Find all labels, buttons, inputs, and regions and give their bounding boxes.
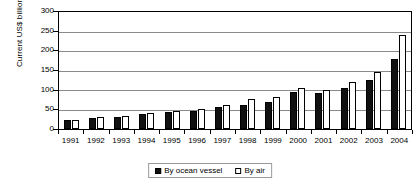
bar-group: [336, 12, 361, 129]
x-tick-mark: [83, 130, 84, 134]
y-tick-label: 50: [26, 105, 54, 113]
x-tick-mark: [387, 130, 388, 134]
bar-air: [173, 111, 180, 129]
bar-ocean-vessel: [265, 102, 272, 129]
bar-group: [285, 12, 310, 129]
x-tick-label: 2002: [336, 136, 361, 145]
chart-legend: By ocean vessel By air: [148, 163, 272, 178]
y-tick-label: 300: [26, 7, 54, 15]
x-tick-label: 1994: [134, 136, 159, 145]
y-tick-label: 200: [26, 46, 54, 54]
y-tick-label: 150: [26, 66, 54, 74]
x-tick-mark: [184, 130, 185, 134]
bar-group: [134, 12, 159, 129]
x-tick-mark: [412, 130, 413, 134]
bar-air: [223, 105, 230, 129]
x-tick-label: 1997: [210, 136, 235, 145]
bar-group: [84, 12, 109, 129]
bar-air: [97, 117, 104, 129]
x-tick-mark: [235, 130, 236, 134]
x-tick-mark: [361, 130, 362, 134]
x-tick-mark: [336, 130, 337, 134]
outlined-white-square-icon: [235, 168, 241, 174]
bar-ocean-vessel: [190, 111, 197, 129]
bar-ocean-vessel: [114, 117, 121, 129]
x-tick-mark: [311, 130, 312, 134]
bar-group: [361, 12, 386, 129]
x-tick-mark: [210, 130, 211, 134]
x-tick-label: 1999: [260, 136, 285, 145]
legend-item-ocean: By ocean vessel: [155, 166, 222, 175]
bar-groups: [59, 12, 411, 129]
bar-group: [386, 12, 411, 129]
y-tick-label: 100: [26, 86, 54, 94]
x-tick-label: 1993: [109, 136, 134, 145]
bar-air: [323, 90, 330, 129]
x-tick-label: 1998: [235, 136, 260, 145]
y-axis-title: Current US$ billion: [15, 0, 24, 88]
x-tick-label: 1995: [159, 136, 184, 145]
bar-group: [59, 12, 84, 129]
bar-air: [198, 109, 205, 129]
x-tick-label: 2001: [311, 136, 336, 145]
x-tick-label: 1992: [83, 136, 108, 145]
bar-chart: Current US$ billion 050100150200250300 1…: [0, 0, 420, 188]
bar-group: [160, 12, 185, 129]
x-tick-mark: [109, 130, 110, 134]
bar-air: [72, 120, 79, 129]
bar-ocean-vessel: [341, 88, 348, 129]
x-axis-tick-labels: 1991199219931994199519961997199819992000…: [58, 136, 412, 145]
bar-ocean-vessel: [89, 118, 96, 129]
bar-air: [349, 82, 356, 129]
bar-ocean-vessel: [64, 120, 71, 129]
legend-label-air: By air: [244, 166, 264, 175]
x-tick-label: 2003: [361, 136, 386, 145]
x-axis-tick-marks: [58, 130, 412, 134]
x-tick-label: 1996: [184, 136, 209, 145]
bar-group: [210, 12, 235, 129]
bar-air: [298, 88, 305, 129]
x-tick-mark: [286, 130, 287, 134]
x-tick-label: 2004: [387, 136, 412, 145]
bar-air: [399, 35, 406, 129]
bar-group: [109, 12, 134, 129]
bar-ocean-vessel: [391, 59, 398, 129]
bar-air: [147, 113, 154, 129]
bar-group: [260, 12, 285, 129]
bar-ocean-vessel: [290, 92, 297, 129]
bar-ocean-vessel: [240, 105, 247, 129]
x-tick-mark: [260, 130, 261, 134]
x-tick-label: 2000: [286, 136, 311, 145]
bar-ocean-vessel: [315, 93, 322, 129]
y-tick-label: 250: [26, 27, 54, 35]
bar-air: [122, 116, 129, 129]
bar-air: [248, 99, 255, 129]
x-tick-mark: [159, 130, 160, 134]
bar-ocean-vessel: [215, 107, 222, 129]
bar-group: [235, 12, 260, 129]
x-tick-mark: [58, 130, 59, 134]
y-tick-label: 0: [26, 125, 54, 133]
bar-ocean-vessel: [366, 80, 373, 129]
legend-item-air: By air: [235, 166, 264, 175]
x-tick-mark: [134, 130, 135, 134]
filled-black-square-icon: [155, 168, 161, 174]
bar-ocean-vessel: [139, 114, 146, 129]
bar-ocean-vessel: [165, 112, 172, 129]
legend-label-ocean: By ocean vessel: [164, 166, 222, 175]
bar-group: [185, 12, 210, 129]
x-tick-label: 1991: [58, 136, 83, 145]
bar-group: [310, 12, 335, 129]
bar-air: [374, 72, 381, 129]
bar-air: [273, 97, 280, 129]
